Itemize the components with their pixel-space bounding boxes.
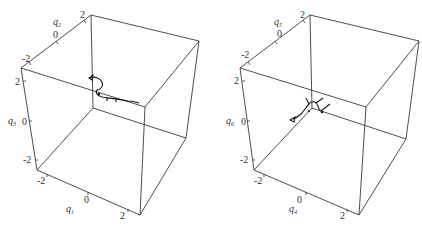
left-q2-tick-2: 2 xyxy=(80,9,85,20)
left-q3-tick-minus2: -2 xyxy=(23,154,31,165)
right-q4-axis-label: q4 xyxy=(289,203,297,215)
left-cube-top-face xyxy=(21,15,199,107)
right-q4-tick-2: 2 xyxy=(340,210,345,221)
right-trajectory xyxy=(290,98,338,122)
right-q6-axis-label: q6 xyxy=(226,115,234,127)
right-cube-bottom-face xyxy=(254,139,406,215)
left-q1-axis-label: q1 xyxy=(66,203,74,215)
left-trajectory xyxy=(89,75,156,103)
right-q5-axis-label: q5 xyxy=(274,16,282,28)
left-q2-axis-label: q2 xyxy=(53,16,61,28)
right-cube-front-edge xyxy=(359,107,366,215)
left-q1-tick-2: 2 xyxy=(120,210,125,221)
left-q1-tick-minus2: -2 xyxy=(37,175,45,186)
left-cube-back-edge xyxy=(91,15,93,108)
left-q3-tick-2: 2 xyxy=(15,76,20,87)
right-q4-tick-minus2: -2 xyxy=(254,175,262,186)
right-q6-tick-0: 0 xyxy=(241,116,246,127)
left-cube-bottom-face xyxy=(37,138,186,215)
left-cube-bottom-back-right xyxy=(93,108,186,138)
left-q2-tick-minus2: -2 xyxy=(22,53,30,64)
right-q5-tick-2: 2 xyxy=(300,9,305,20)
left-q3-tick-0: 0 xyxy=(22,116,27,127)
right-q6-tick-minus2: -2 xyxy=(240,154,248,165)
figure: -2 0 2 q2 2 0 -2 q3 -2 0 2 q1 xyxy=(0,0,422,229)
right-q4-tick-0: 0 xyxy=(297,194,302,205)
right-cube-back-edge xyxy=(310,15,312,108)
right-cube-bottom-back-right xyxy=(312,108,406,139)
tick xyxy=(84,20,86,23)
left-q1-tick-0: 0 xyxy=(84,194,89,205)
right-q5-tick-0: 0 xyxy=(277,28,282,39)
right-cube-right-edge xyxy=(406,41,419,139)
tick xyxy=(275,41,277,44)
left-cube-bottom-back-left xyxy=(37,108,93,170)
right-cube-bottom-back-left xyxy=(254,108,312,170)
left-q3-axis-label: q3 xyxy=(8,115,16,127)
tick xyxy=(56,41,58,44)
right-q5-tick-minus2: -2 xyxy=(241,49,249,60)
right-cube-top-face xyxy=(240,15,419,107)
right-q6-tick-2: 2 xyxy=(234,75,239,86)
tick xyxy=(248,62,250,65)
tick xyxy=(303,20,305,23)
left-q2-tick-0: 0 xyxy=(53,29,58,40)
right-cube-plot: -2 0 2 q5 2 0 -2 q6 -2 0 2 q4 xyxy=(226,9,419,221)
left-cube-plot: -2 0 2 q2 2 0 -2 q3 -2 0 2 q1 xyxy=(8,9,199,221)
left-cube-right-edge xyxy=(186,41,199,138)
